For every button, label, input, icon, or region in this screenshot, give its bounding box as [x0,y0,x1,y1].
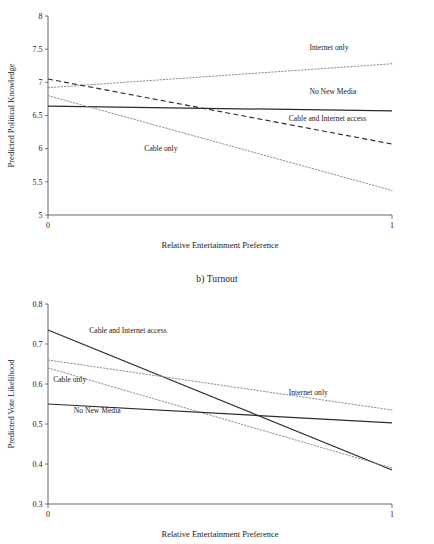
y-tick-label: 8 [39,12,43,21]
x-tick-label: 1 [390,510,394,519]
y-tick-label: 6.5 [33,111,43,120]
x-tick-label: 1 [390,221,394,230]
series-label: Cable and Internet access [289,114,366,123]
series-label: No New Media [74,406,121,415]
series-label: No New Media [309,87,356,96]
y-tick-label: 0.6 [33,380,43,389]
political-knowledge-plot: 55.566.577.5801Internet onlyNo New Media… [0,0,434,272]
y-axis-title: Predicted Political Knowledge [6,63,16,167]
series-label: Cable only [144,144,177,153]
series-label: Cable and Internet access [89,326,166,335]
y-tick-label: 0.5 [33,420,43,429]
y-tick-label: 6 [39,144,43,153]
panel-turnout: b) Turnout 0.30.40.50.60.70.801Cable and… [0,272,434,544]
x-tick-label: 0 [46,221,50,230]
y-tick-label: 0.3 [33,500,43,509]
turnout-plot: 0.30.40.50.60.70.801Cable and Internet a… [0,272,434,544]
x-axis-title: Relative Entertainment Preference [161,240,278,250]
series-line [48,64,392,88]
panel-political-knowledge: 55.566.577.5801Internet onlyNo New Media… [0,0,434,272]
y-tick-label: 7 [39,78,43,87]
y-tick-label: 5.5 [33,178,43,187]
y-tick-label: 7.5 [33,45,43,54]
series-label: Internet only [309,43,348,52]
series-line [48,330,392,470]
figure-two-panel-line-charts: 55.566.577.5801Internet onlyNo New Media… [0,0,434,544]
series-line [48,360,392,410]
y-axis-title: Predicted Vote Likelihood [6,359,16,449]
y-tick-label: 5 [39,211,43,220]
series-label: Internet only [289,388,328,397]
x-axis-title: Relative Entertainment Preference [161,529,278,539]
y-tick-label: 0.8 [33,300,43,309]
y-tick-label: 0.4 [33,460,43,469]
x-tick-label: 0 [46,510,50,519]
series-label: Cable only [53,375,86,384]
series-line [48,368,392,468]
y-tick-label: 0.7 [33,340,43,349]
